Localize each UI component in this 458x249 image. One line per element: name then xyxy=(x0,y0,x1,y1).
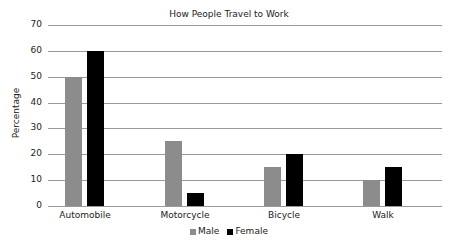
legend-swatch-icon xyxy=(227,229,233,235)
x-tick-label: Automobile xyxy=(35,210,135,220)
gridline xyxy=(48,51,442,52)
bar-male-walk xyxy=(363,180,380,206)
bar-male-automobile xyxy=(65,77,82,206)
legend-label: Male xyxy=(198,226,219,236)
legend-label: Female xyxy=(235,226,268,236)
legend-swatch-icon xyxy=(190,229,196,235)
y-axis-label: Percentage xyxy=(11,83,21,143)
bar-female-automobile xyxy=(87,51,104,206)
y-tick-label: 50 xyxy=(14,71,42,81)
plot-area xyxy=(48,25,442,206)
legend-item-male: Male xyxy=(190,226,219,236)
gridline xyxy=(48,154,442,155)
x-tick-label: Walk xyxy=(333,210,433,220)
y-tick-label: 30 xyxy=(14,122,42,132)
x-tick-label: Bicycle xyxy=(234,210,334,220)
gridline xyxy=(48,25,442,26)
y-tick-label: 0 xyxy=(14,200,42,210)
legend-item-female: Female xyxy=(227,226,268,236)
y-tick-label: 10 xyxy=(14,174,42,184)
y-tick-label: 20 xyxy=(14,148,42,158)
bar-female-motorcycle xyxy=(187,193,204,206)
y-tick-label: 40 xyxy=(14,97,42,107)
bar-male-bicycle xyxy=(264,167,281,206)
bar-male-motorcycle xyxy=(165,141,182,206)
gridline xyxy=(48,103,442,104)
gridline xyxy=(48,180,442,181)
gridline xyxy=(48,77,442,78)
bar-female-bicycle xyxy=(286,154,303,206)
bar-female-walk xyxy=(385,167,402,206)
legend: MaleFemale xyxy=(0,226,458,236)
gridline xyxy=(48,206,442,207)
y-tick-label: 70 xyxy=(14,19,42,29)
x-tick-label: Motorcycle xyxy=(135,210,235,220)
chart-title: How People Travel to Work xyxy=(0,9,458,19)
gridline xyxy=(48,128,442,129)
y-tick-label: 60 xyxy=(14,45,42,55)
